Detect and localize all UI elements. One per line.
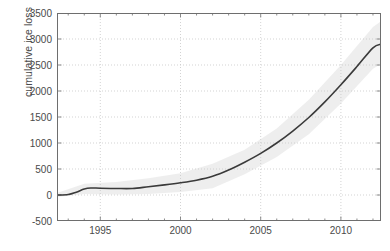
uncertainty-band <box>57 21 381 197</box>
x-axis-tick-labels: 1995200020052010 <box>0 225 390 245</box>
y-tick-label: 1500 <box>16 112 52 123</box>
y-tick-label: 500 <box>16 164 52 175</box>
x-tick-label: 2005 <box>239 225 283 236</box>
y-tick-label: 2000 <box>16 86 52 97</box>
y-tick-label: 2500 <box>16 60 52 71</box>
y-tick-label: 0 <box>16 190 52 201</box>
plot-area <box>57 13 381 221</box>
chart-figure: cumulative ice loss -5000500100015002000… <box>0 0 390 251</box>
x-tick-label: 2000 <box>159 225 203 236</box>
x-tick-label: 1995 <box>78 225 122 236</box>
y-tick-label: 3500 <box>16 8 52 19</box>
y-axis-tick-labels: -5000500100015002000250030003500 <box>12 0 52 251</box>
plot-canvas <box>57 13 381 221</box>
y-tick-label: 3000 <box>16 34 52 45</box>
x-tick-label: 2010 <box>319 225 363 236</box>
y-tick-label: 1000 <box>16 138 52 149</box>
